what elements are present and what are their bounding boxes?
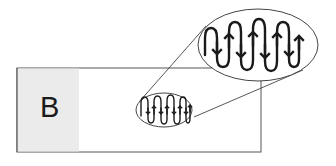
panel-label: B: [40, 93, 59, 122]
small-ellipse: [136, 93, 192, 127]
diagram-canvas: [0, 0, 336, 166]
